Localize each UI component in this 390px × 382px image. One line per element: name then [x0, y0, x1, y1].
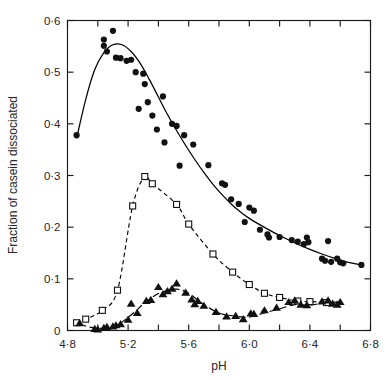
data-point-total-casein [140, 71, 146, 77]
data-point-beta-casein [83, 316, 89, 322]
data-point-total-casein [101, 43, 107, 49]
data-point-total-casein [104, 48, 110, 54]
data-point-total-casein [257, 227, 263, 233]
data-point-total-casein [101, 37, 107, 43]
y-axis-tick-labels: 00·10·20·30·40·50·6 [44, 15, 61, 337]
data-point-beta-casein [174, 201, 180, 207]
data-point-beta-casein [130, 203, 136, 209]
data-point-total-casein [181, 132, 187, 138]
x-tick-label: 6·4 [302, 338, 319, 350]
data-point-total-casein [222, 182, 228, 188]
series-data-markers [73, 28, 364, 333]
x-tick-label: 4·8 [59, 338, 76, 350]
data-point-total-casein [295, 239, 301, 245]
data-point-beta-casein [210, 251, 216, 257]
data-point-total-casein [190, 141, 196, 147]
data-point-total-casein [110, 28, 116, 34]
data-point-total-casein [322, 258, 328, 264]
data-point-total-casein [154, 126, 160, 132]
y-tick-label: 0·2 [44, 221, 61, 233]
data-point-total-casein [142, 81, 148, 87]
data-point-kappa-casein [172, 279, 181, 286]
data-point-kappa-casein [239, 315, 248, 322]
data-point-beta-casein [230, 269, 236, 275]
y-tick-label: 0·1 [44, 273, 61, 285]
data-point-kappa-casein [272, 304, 281, 311]
data-point-beta-casein [246, 282, 252, 288]
y-axis-title: Fraction of casein dissociated [6, 96, 20, 254]
data-point-beta-casein [261, 290, 267, 296]
data-point-total-casein [128, 57, 134, 63]
data-point-beta-casein [186, 221, 192, 227]
y-tick-label: 0·6 [44, 15, 61, 27]
data-point-kappa-casein [127, 299, 136, 306]
data-point-total-casein [177, 163, 183, 169]
data-point-total-casein [305, 239, 311, 245]
x-axis-title: pH [211, 359, 226, 373]
data-point-total-casein [228, 196, 234, 202]
data-point-total-casein [205, 162, 211, 168]
x-axis-tick-labels: 4·85·25·66·06·46·8 [59, 338, 379, 350]
data-point-total-casein [160, 93, 166, 99]
data-point-total-casein [136, 106, 142, 112]
x-tick-label: 6·0 [241, 338, 258, 350]
series-line-total-casein [77, 44, 362, 265]
data-point-total-casein [145, 99, 151, 105]
data-point-total-casein [266, 234, 272, 240]
data-point-total-casein [73, 132, 79, 138]
data-point-total-casein [133, 69, 139, 75]
series-line-kappa-casein [80, 289, 341, 328]
plot-axes [68, 21, 371, 331]
x-axis-ticks [68, 21, 371, 331]
y-axis-ticks [68, 21, 371, 331]
data-point-kappa-casein [154, 283, 163, 290]
data-point-kappa-casein [212, 308, 221, 315]
data-point-kappa-casein [133, 309, 142, 316]
data-point-total-casein [358, 262, 364, 268]
data-point-beta-casein [99, 307, 105, 313]
data-point-beta-casein [149, 181, 155, 187]
data-point-total-casein [340, 260, 346, 266]
x-tick-label: 5·6 [180, 338, 197, 350]
data-point-total-casein [173, 123, 179, 129]
data-point-total-casein [328, 259, 334, 265]
data-point-total-casein [251, 208, 257, 214]
y-tick-label: 0·3 [44, 170, 61, 182]
data-point-beta-casein [142, 174, 148, 180]
data-point-total-casein [289, 237, 295, 243]
series-fit-lines [77, 44, 362, 329]
data-point-beta-casein [277, 294, 283, 300]
y-tick-label: 0 [54, 325, 60, 337]
data-point-total-casein [236, 201, 242, 207]
data-point-kappa-casein [181, 289, 190, 296]
y-tick-label: 0·5 [44, 66, 61, 78]
y-tick-label: 0·4 [44, 118, 61, 130]
data-point-kappa-casein [124, 315, 133, 322]
chart-figure: 4·85·25·66·06·46·8 00·10·20·30·40·50·6 p… [0, 0, 390, 382]
ph-dissociation-scatter-plot: 4·85·25·66·06·46·8 00·10·20·30·40·50·6 p… [0, 0, 390, 382]
data-point-total-casein [161, 139, 167, 145]
data-point-total-casein [117, 55, 123, 61]
plot-frame [68, 21, 371, 331]
data-point-total-casein [149, 112, 155, 118]
x-tick-label: 5·2 [120, 338, 137, 350]
x-tick-label: 6·8 [362, 338, 379, 350]
data-point-beta-casein [115, 287, 121, 293]
data-point-total-casein [325, 238, 331, 244]
data-point-total-casein [242, 219, 248, 225]
data-point-total-casein [277, 234, 283, 240]
data-point-kappa-casein [260, 306, 269, 313]
